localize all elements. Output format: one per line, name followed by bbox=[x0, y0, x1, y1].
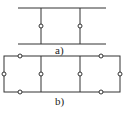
node bbox=[39, 72, 43, 76]
node bbox=[18, 54, 22, 58]
diagram-a bbox=[18, 8, 106, 44]
node bbox=[118, 72, 122, 76]
node bbox=[18, 90, 22, 94]
node bbox=[99, 90, 103, 94]
diagram-b bbox=[2, 54, 122, 94]
node bbox=[78, 24, 82, 28]
frame bbox=[4, 56, 120, 92]
node bbox=[78, 72, 82, 76]
node bbox=[2, 72, 6, 76]
node bbox=[99, 54, 103, 58]
node bbox=[39, 24, 43, 28]
label-a: a) bbox=[55, 45, 64, 56]
label-b: b) bbox=[55, 96, 64, 107]
